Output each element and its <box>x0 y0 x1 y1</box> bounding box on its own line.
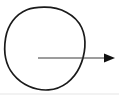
diagram-svg <box>0 0 119 95</box>
canvas-background <box>0 0 119 95</box>
figure-canvas <box>0 0 119 95</box>
